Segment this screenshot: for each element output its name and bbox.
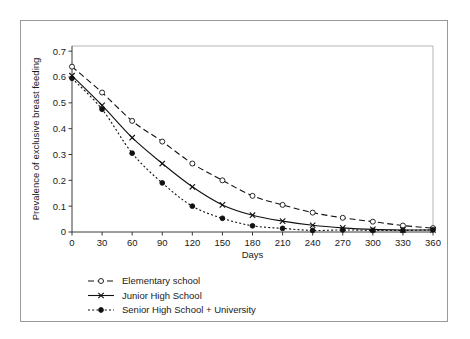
data-point-marker bbox=[190, 161, 195, 166]
data-point-marker bbox=[70, 64, 75, 69]
x-tick-label: 240 bbox=[305, 237, 321, 248]
x-tick-label: 270 bbox=[335, 237, 351, 248]
series-line bbox=[72, 78, 433, 230]
data-point-marker bbox=[160, 139, 165, 144]
data-point-marker bbox=[400, 223, 405, 228]
data-point-marker bbox=[130, 151, 135, 156]
y-tick-label: 0.1 bbox=[53, 201, 66, 212]
data-point-marker bbox=[370, 219, 375, 224]
data-point-marker bbox=[250, 193, 255, 198]
series-3 bbox=[70, 76, 436, 233]
data-point-marker bbox=[100, 107, 105, 112]
y-tick-label: 0.4 bbox=[53, 123, 66, 134]
x-tick-label: 150 bbox=[214, 237, 230, 248]
y-tick-label: 0.7 bbox=[53, 46, 66, 57]
data-point-marker bbox=[431, 228, 436, 233]
data-point-marker bbox=[220, 178, 225, 183]
legend-label: Junior High School bbox=[122, 290, 202, 301]
y-tick-label: 0.5 bbox=[53, 97, 66, 108]
data-point-marker bbox=[280, 226, 285, 231]
data-point-marker bbox=[310, 228, 315, 233]
data-point-marker bbox=[129, 135, 134, 140]
legend-item[interactable]: Junior High School bbox=[88, 290, 202, 301]
series-2 bbox=[69, 73, 435, 233]
x-tick-label: 60 bbox=[127, 237, 138, 248]
data-point-marker bbox=[130, 118, 135, 123]
y-tick-label: 0.2 bbox=[53, 175, 66, 186]
data-point-marker bbox=[340, 228, 345, 233]
y-tick-label: 0.6 bbox=[53, 71, 66, 82]
legend-marker-marker bbox=[99, 308, 104, 313]
data-point-marker bbox=[310, 210, 315, 215]
data-point-marker bbox=[220, 216, 225, 221]
y-axis-title: Prevalence of exclusive breast feeding bbox=[30, 58, 41, 221]
legend-label: Senior High School + University bbox=[122, 304, 256, 315]
plot-frame bbox=[72, 46, 433, 232]
y-tick-label: 0 bbox=[61, 226, 66, 237]
data-point-marker bbox=[340, 215, 345, 220]
x-tick-label: 210 bbox=[275, 237, 291, 248]
legend-marker-marker bbox=[99, 279, 104, 284]
data-point-marker bbox=[190, 204, 195, 209]
figure-root: 00.10.20.30.40.50.60.7030609012015018021… bbox=[0, 0, 470, 339]
series-line bbox=[72, 67, 433, 228]
legend-item[interactable]: Senior High School + University bbox=[88, 304, 256, 315]
data-point-marker bbox=[220, 202, 225, 207]
x-axis-title: Days bbox=[242, 249, 264, 260]
data-point-marker bbox=[160, 181, 165, 186]
x-tick-label: 330 bbox=[395, 237, 411, 248]
series-1 bbox=[70, 64, 436, 230]
x-tick-label: 90 bbox=[157, 237, 168, 248]
x-tick-label: 360 bbox=[425, 237, 441, 248]
data-point-marker bbox=[70, 76, 75, 81]
data-point-marker bbox=[370, 228, 375, 233]
data-point-marker bbox=[100, 90, 105, 95]
line-chart: 00.10.20.30.40.50.60.7030609012015018021… bbox=[0, 0, 470, 339]
series-line bbox=[72, 76, 433, 230]
legend-item[interactable]: Elementary school bbox=[88, 275, 200, 286]
data-point-marker bbox=[401, 228, 406, 233]
legend: Elementary schoolJunior High SchoolSenio… bbox=[88, 275, 256, 315]
data-point-marker bbox=[190, 184, 195, 189]
y-tick-label: 0.3 bbox=[53, 149, 66, 160]
legend-label: Elementary school bbox=[122, 275, 200, 286]
data-point-marker bbox=[250, 223, 255, 228]
x-tick-label: 30 bbox=[97, 237, 108, 248]
x-tick-label: 300 bbox=[365, 237, 381, 248]
x-tick-label: 180 bbox=[245, 237, 261, 248]
data-point-marker bbox=[160, 161, 165, 166]
x-tick-label: 120 bbox=[184, 237, 200, 248]
data-point-marker bbox=[280, 202, 285, 207]
x-tick-label: 0 bbox=[69, 237, 74, 248]
